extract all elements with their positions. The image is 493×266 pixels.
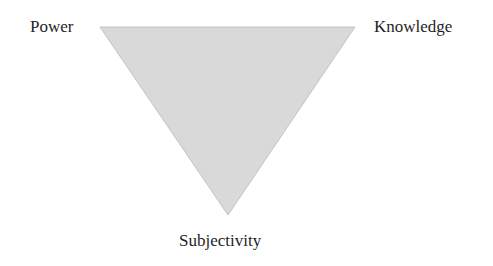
vertex-label-subjectivity: Subjectivity — [179, 231, 261, 251]
triangle-polygon — [100, 27, 355, 215]
vertex-label-knowledge: Knowledge — [374, 17, 452, 37]
triangle-diagram: Power Knowledge Subjectivity — [0, 0, 493, 266]
inverted-triangle-shape — [0, 0, 493, 266]
vertex-label-power: Power — [30, 17, 73, 37]
